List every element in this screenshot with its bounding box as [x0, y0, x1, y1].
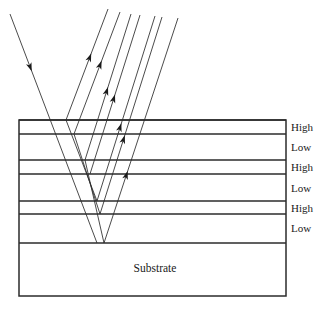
layer-label-3: Low	[291, 182, 311, 194]
reflected-ray-6	[100, 17, 162, 214]
layer-label-0: High	[291, 121, 314, 133]
diagram-canvas: HighLowHighLowHighLow Substrate	[0, 0, 333, 315]
layer-label-5: Low	[291, 222, 311, 234]
incident-ray	[10, 14, 97, 243]
reflected-ray-7	[104, 18, 178, 243]
ray-group	[10, 9, 178, 243]
layer-label-2: High	[291, 161, 314, 173]
layer-label-1: Low	[291, 141, 311, 153]
thin-film-stack-diagram: HighLowHighLowHighLow Substrate	[0, 0, 333, 315]
reflected-ray-1	[66, 9, 108, 120]
layer-label-group: HighLowHighLowHighLow	[291, 121, 314, 234]
layer-label-4: High	[291, 202, 314, 214]
reflected-ray-2	[74, 12, 120, 134]
layer-boundary-lines	[19, 120, 286, 243]
substrate-label: Substrate	[134, 262, 177, 274]
